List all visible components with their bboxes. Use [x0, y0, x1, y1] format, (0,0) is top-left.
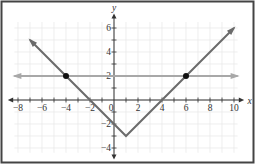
frame-border — [2, 2, 254, 163]
chart-canvas: −8−6−4−20246810−4−2246xy — [0, 0, 255, 164]
x-tick-label: 6 — [184, 103, 189, 113]
x-tick-label: 4 — [160, 103, 165, 113]
x-tick-label: −4 — [61, 103, 71, 113]
x-tick-label: 8 — [208, 103, 213, 113]
y-tick-label: −4 — [101, 143, 111, 153]
intersection-point — [183, 73, 189, 79]
y-tick-label: 4 — [106, 47, 111, 57]
y-axis-label: y — [111, 3, 117, 13]
intersection-point — [63, 73, 69, 79]
y-tick-label: 6 — [106, 23, 111, 33]
x-tick-label: −8 — [13, 103, 23, 113]
x-tick-label: −6 — [37, 103, 47, 113]
x-axis-label: x — [246, 96, 252, 106]
x-tick-label: 2 — [136, 103, 141, 113]
graph-figure: −8−6−4−20246810−4−2246xy — [0, 0, 255, 164]
x-tick-label: 10 — [229, 103, 239, 113]
x-tick-label: 0 — [109, 103, 114, 113]
